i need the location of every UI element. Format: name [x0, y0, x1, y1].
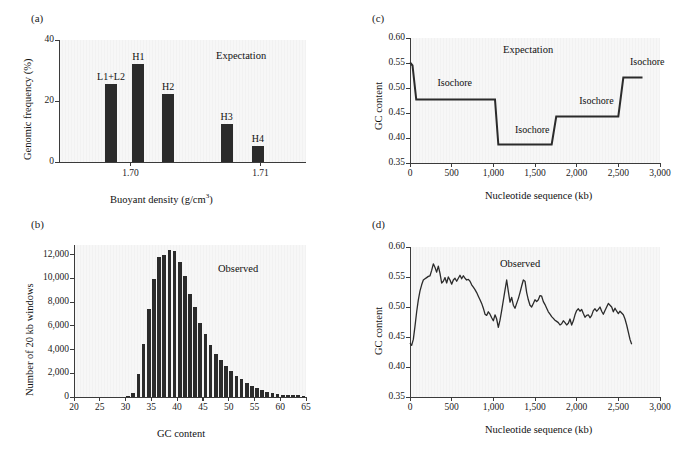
panel-a-x-title: Buoyant density (g/cm3) — [110, 192, 213, 205]
panel-b-y-tick-label: 12,000 — [32, 249, 69, 259]
panel-a-x-tick — [260, 162, 261, 166]
panel-a-annotation: Expectation — [216, 50, 266, 61]
panel-a-y-tick-label: 40 — [32, 34, 54, 44]
panel-d-x-tick — [451, 397, 452, 401]
panel-b-bar — [255, 388, 259, 397]
panel-c-x-tick — [451, 163, 452, 167]
panel-c-x-tick — [618, 163, 619, 167]
panel-b-y-axis — [74, 245, 75, 397]
panel-b-y-tick-label: 0 — [32, 391, 69, 401]
panel-b-x-tick — [228, 397, 229, 401]
panel-b-x-tick-label: 20 — [62, 402, 86, 412]
panel-c-x-tick — [535, 163, 536, 167]
panel-a-x-tick-label: 1.71 — [245, 168, 277, 178]
panel-b-bar — [265, 392, 269, 397]
panel-b-x-tick-label: 30 — [114, 402, 138, 412]
panel-c-y-tick-label: 0.40 — [380, 132, 405, 142]
panel-a-bar — [132, 64, 144, 162]
panel-d-x-tick-label: 3,000 — [644, 402, 676, 412]
panel-c-annotation: Expectation — [503, 44, 553, 55]
panel-b-x-tick — [254, 397, 255, 401]
panel-b-y-tick — [70, 302, 74, 303]
panel-c-y-title: GC content — [373, 82, 384, 130]
panel-d-x-tick-label: 0 — [394, 402, 426, 412]
panel-b-x-tick — [74, 397, 75, 401]
panel-b-y-tick — [70, 349, 74, 350]
panel-c-y-tick-label: 0.60 — [380, 32, 405, 42]
panel-b-y-tick-label: 4,000 — [32, 344, 69, 354]
panel-b-bar — [219, 360, 223, 397]
panel-b-bar — [286, 395, 290, 397]
panel-d-x-tick-label: 1,500 — [519, 402, 551, 412]
panel-b-y-tick-label: 6,000 — [32, 320, 69, 330]
panel-d-x-tick — [618, 397, 619, 401]
panel-a-y-tick-label: 0 — [32, 156, 54, 166]
panel-b-y-tick — [70, 373, 74, 374]
panel-b-bar — [162, 255, 166, 397]
panel-d-y-tick-label: 0.35 — [380, 391, 405, 401]
panel-d-x-tick-label: 1,000 — [477, 402, 509, 412]
panel-b-x-tick-label: 45 — [191, 402, 215, 412]
panel-a-y-tick — [55, 162, 59, 163]
panel-b-bar — [235, 376, 239, 397]
panel-d-x-tick-label: 500 — [436, 402, 468, 412]
panel-b-y-title: Number of 20 kb windows — [24, 283, 35, 396]
panel-d-x-tick-label: 2,000 — [561, 402, 593, 412]
panel-b-bar — [152, 279, 156, 397]
panel-d-label: (d) — [372, 218, 385, 230]
panel-b-label: (b) — [31, 218, 44, 230]
panel-b-bar — [198, 323, 202, 397]
isochore-label: Isochore — [515, 124, 549, 135]
panel-b-x-tick-label: 40 — [165, 402, 189, 412]
panel-c-x-tick-label: 500 — [436, 168, 468, 178]
panel-a-bar-label: L1+L2 — [91, 71, 131, 82]
panel-b-x-tick-label: 50 — [217, 402, 241, 412]
panel-b-bar — [291, 395, 295, 397]
panel-b-x-tick-label: 25 — [88, 402, 112, 412]
panel-b-bar — [178, 262, 182, 397]
panel-b-bar — [245, 383, 249, 397]
panel-b-bar — [147, 309, 151, 397]
panel-b-bar — [142, 344, 146, 397]
panel-b-y-tick-label: 2,000 — [32, 367, 69, 377]
panel-b-bar — [271, 393, 275, 397]
panel-b-bar — [214, 354, 218, 397]
panel-c-x-title: Nucleotide sequence (kb) — [485, 190, 592, 201]
panel-a-x-tick-label: 1.70 — [115, 168, 147, 178]
isochore-label: Isochore — [630, 56, 664, 67]
panel-b-bar — [188, 294, 192, 397]
panel-b-bar — [209, 345, 213, 397]
panel-b-bar — [193, 307, 197, 397]
panel-a-bar — [252, 146, 264, 162]
panel-c-x-tick — [493, 163, 494, 167]
panel-d-annotation: Observed — [500, 258, 540, 269]
panel-d-y-tick-label: 0.60 — [380, 241, 405, 251]
panel-d-y-tick-label: 0.40 — [380, 361, 405, 371]
panel-c-x-tick — [410, 163, 411, 167]
panel-b-x-tick — [125, 397, 126, 401]
panel-a-label: (a) — [31, 12, 43, 24]
panel-b-x-tick-label: 65 — [294, 402, 318, 412]
panel-c-step-line — [410, 38, 660, 163]
panel-b-bar — [281, 395, 285, 397]
panel-b-annotation: Observed — [218, 263, 258, 274]
panel-d-y-title: GC content — [373, 307, 384, 355]
panel-b-x-tick — [151, 397, 152, 401]
panel-c-x-tick-label: 3,000 — [644, 168, 676, 178]
panel-b-bar — [137, 374, 141, 397]
panel-b-x-tick — [306, 397, 307, 401]
panel-b-y-tick — [70, 254, 74, 255]
panel-c-y-tick-label: 0.35 — [380, 157, 405, 167]
panel-b-bar — [157, 257, 161, 397]
observed-gc-path — [410, 264, 632, 346]
panel-b-x-tick-label: 55 — [242, 402, 266, 412]
panel-b-x-tick — [177, 397, 178, 401]
panel-a-bar-label: H2 — [148, 81, 188, 92]
panel-d-x-tick — [410, 397, 411, 401]
panel-b-bar — [224, 366, 228, 397]
panel-d-y-tick-label: 0.55 — [380, 271, 405, 281]
panel-b-bar — [168, 250, 172, 397]
panel-a-bar-label: H3 — [207, 111, 247, 122]
panel-d-x-tick-label: 2,500 — [602, 402, 634, 412]
panel-d-trace-line — [410, 247, 660, 397]
